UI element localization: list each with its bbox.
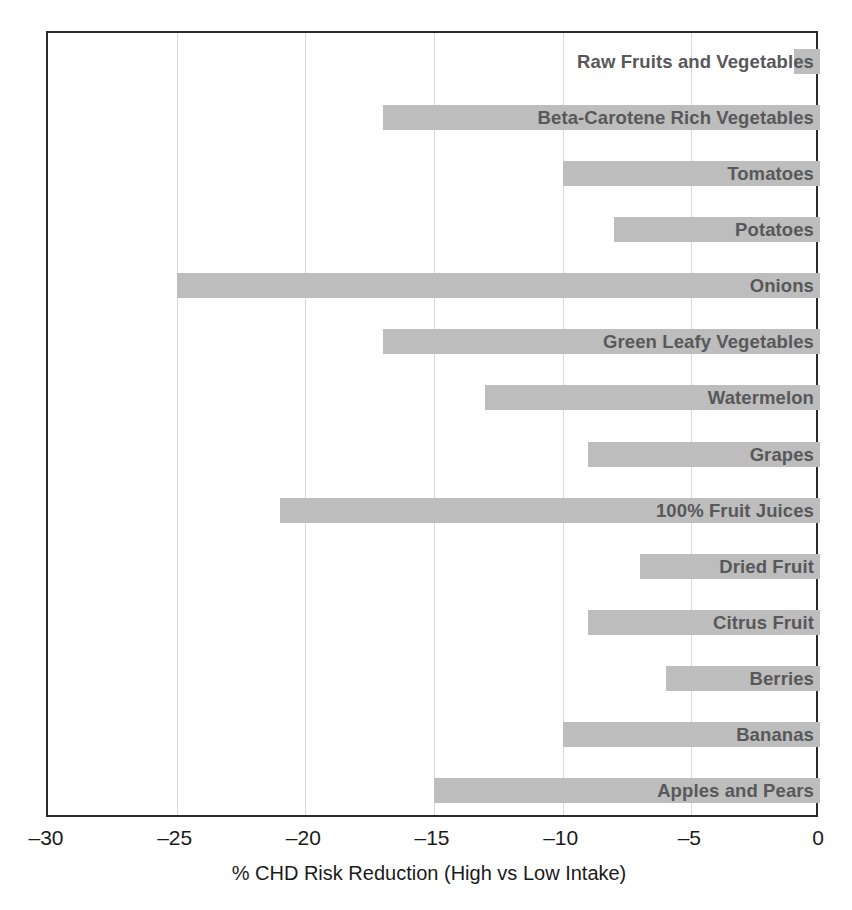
bar-row: Green Leafy Vegetables xyxy=(48,314,816,370)
plot-area: Raw Fruits and VegetablesBeta-Carotene R… xyxy=(46,31,818,817)
x-tick-label--30: –30 xyxy=(28,826,63,850)
bar-label: Bananas xyxy=(736,722,814,747)
bar-row: Grapes xyxy=(48,426,816,482)
bar-row: Watermelon xyxy=(48,370,816,426)
bar[interactable]: Potatoes xyxy=(614,217,820,242)
bar-label: Dried Fruit xyxy=(719,554,814,579)
bar[interactable]: Watermelon xyxy=(485,385,820,410)
bar[interactable]: 100% Fruit Juices xyxy=(280,498,820,523)
bar[interactable]: Berries xyxy=(666,666,820,691)
bar-label: Apples and Pears xyxy=(657,778,814,803)
bar[interactable]: Bananas xyxy=(563,722,820,747)
bar[interactable]: Citrus Fruit xyxy=(588,610,820,635)
bar[interactable]: Apples and Pears xyxy=(434,778,820,803)
x-axis-tick-labels: –30–25–20–15–10–50 xyxy=(0,826,852,860)
bar-row: 100% Fruit Juices xyxy=(48,482,816,538)
bar-label: Raw Fruits and Vegetables xyxy=(577,49,814,74)
bar-row: Raw Fruits and Vegetables xyxy=(48,33,816,89)
x-tick-label--20: –20 xyxy=(286,826,321,850)
x-tick-label--5: –5 xyxy=(678,826,701,850)
bar-label: Potatoes xyxy=(735,217,814,242)
bar-row: Citrus Fruit xyxy=(48,594,816,650)
bar-label: Citrus Fruit xyxy=(713,610,814,635)
bar-row: Beta-Carotene Rich Vegetables xyxy=(48,89,816,145)
bar[interactable]: Green Leafy Vegetables xyxy=(383,329,820,354)
chd-risk-reduction-bar-chart: Raw Fruits and VegetablesBeta-Carotene R… xyxy=(0,0,852,910)
bar-label: 100% Fruit Juices xyxy=(656,498,814,523)
bar[interactable]: Onions xyxy=(177,273,820,298)
x-axis-title: % CHD Risk Reduction (High vs Low Intake… xyxy=(0,862,852,885)
bar-label: Onions xyxy=(750,273,814,298)
bar[interactable]: Tomatoes xyxy=(563,161,820,186)
bar-label: Grapes xyxy=(750,442,814,467)
x-tick-label-0: 0 xyxy=(812,826,824,850)
bar[interactable]: Dried Fruit xyxy=(640,554,820,579)
x-axis-title-text: % CHD Risk Reduction (High vs Low Intake… xyxy=(232,862,627,885)
bar-row: Potatoes xyxy=(48,201,816,257)
bar-label: Green Leafy Vegetables xyxy=(603,329,814,354)
bar-label: Berries xyxy=(750,666,814,691)
x-tick-label--15: –15 xyxy=(414,826,449,850)
bar-label: Watermelon xyxy=(708,385,814,410)
bar[interactable]: Grapes xyxy=(588,442,820,467)
bar-label: Tomatoes xyxy=(727,161,814,186)
bar-row: Apples and Pears xyxy=(48,763,816,819)
bar-row: Onions xyxy=(48,258,816,314)
bar-row: Tomatoes xyxy=(48,145,816,201)
x-tick-label--10: –10 xyxy=(543,826,578,850)
bar[interactable]: Raw Fruits and Vegetables xyxy=(794,49,820,74)
bar[interactable]: Beta-Carotene Rich Vegetables xyxy=(383,105,820,130)
bars-layer: Raw Fruits and VegetablesBeta-Carotene R… xyxy=(48,33,816,815)
bar-label: Beta-Carotene Rich Vegetables xyxy=(538,105,814,130)
bar-row: Bananas xyxy=(48,707,816,763)
bar-row: Berries xyxy=(48,651,816,707)
x-tick-label--25: –25 xyxy=(157,826,192,850)
bar-row: Dried Fruit xyxy=(48,538,816,594)
